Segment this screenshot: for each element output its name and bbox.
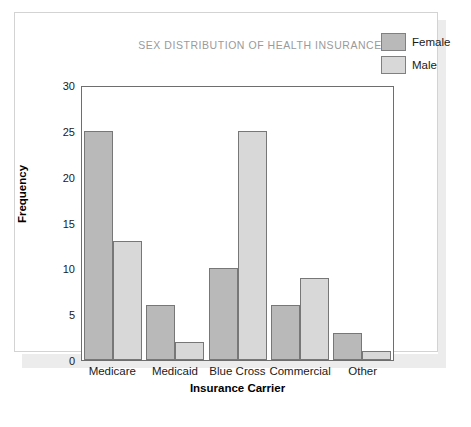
legend-label-female: Female	[412, 36, 450, 48]
bar-other-male	[362, 351, 391, 360]
chart-title: SEX DISTRIBUTION OF HEALTH INSURANCE	[135, 39, 385, 51]
legend-item-male: Male	[381, 56, 450, 74]
x-tick-label: Medicaid	[144, 365, 207, 377]
bar-group	[331, 87, 393, 360]
bar-group	[144, 87, 206, 360]
bar-other-female	[333, 333, 362, 361]
y-tick-label: 15	[49, 218, 75, 230]
x-axis-title: Insurance Carrier	[81, 382, 394, 394]
y-axis-ticks: 302520151050	[45, 86, 75, 361]
y-tick-label: 0	[49, 355, 75, 367]
legend-item-female: Female	[381, 33, 450, 51]
y-tick-label: 20	[49, 172, 75, 184]
bar-group	[269, 87, 331, 360]
legend-swatch-male	[381, 56, 406, 74]
bar-medicaid-female	[146, 305, 175, 360]
bar-group	[82, 87, 144, 360]
bar-medicare-female	[84, 131, 113, 360]
chart-legend: Female Male	[381, 33, 450, 79]
y-tick-label: 10	[49, 263, 75, 275]
bar-blue-cross-male	[238, 131, 267, 360]
legend-swatch-female	[381, 33, 406, 51]
x-tick-label: Medicare	[81, 365, 144, 377]
y-tick-label: 5	[49, 309, 75, 321]
legend-label-male: Male	[412, 59, 437, 71]
plot-area	[81, 86, 394, 361]
chart-card: SEX DISTRIBUTION OF HEALTH INSURANCE Fem…	[14, 12, 438, 352]
y-axis-title: Frequency	[16, 165, 28, 223]
x-tick-label: Other	[331, 365, 394, 377]
bar-medicaid-male	[175, 342, 204, 360]
x-tick-label: Blue Cross	[206, 365, 269, 377]
y-tick-label: 25	[49, 126, 75, 138]
bar-group	[206, 87, 268, 360]
x-axis-ticks: MedicareMedicaidBlue CrossCommercialOthe…	[81, 365, 394, 377]
bar-commercial-female	[271, 305, 300, 360]
y-tick-label: 30	[49, 80, 75, 92]
bar-blue-cross-female	[209, 268, 238, 360]
x-tick-label: Commercial	[269, 365, 332, 377]
bar-groups	[82, 87, 393, 360]
bar-commercial-male	[300, 278, 329, 361]
bar-medicare-male	[113, 241, 142, 360]
